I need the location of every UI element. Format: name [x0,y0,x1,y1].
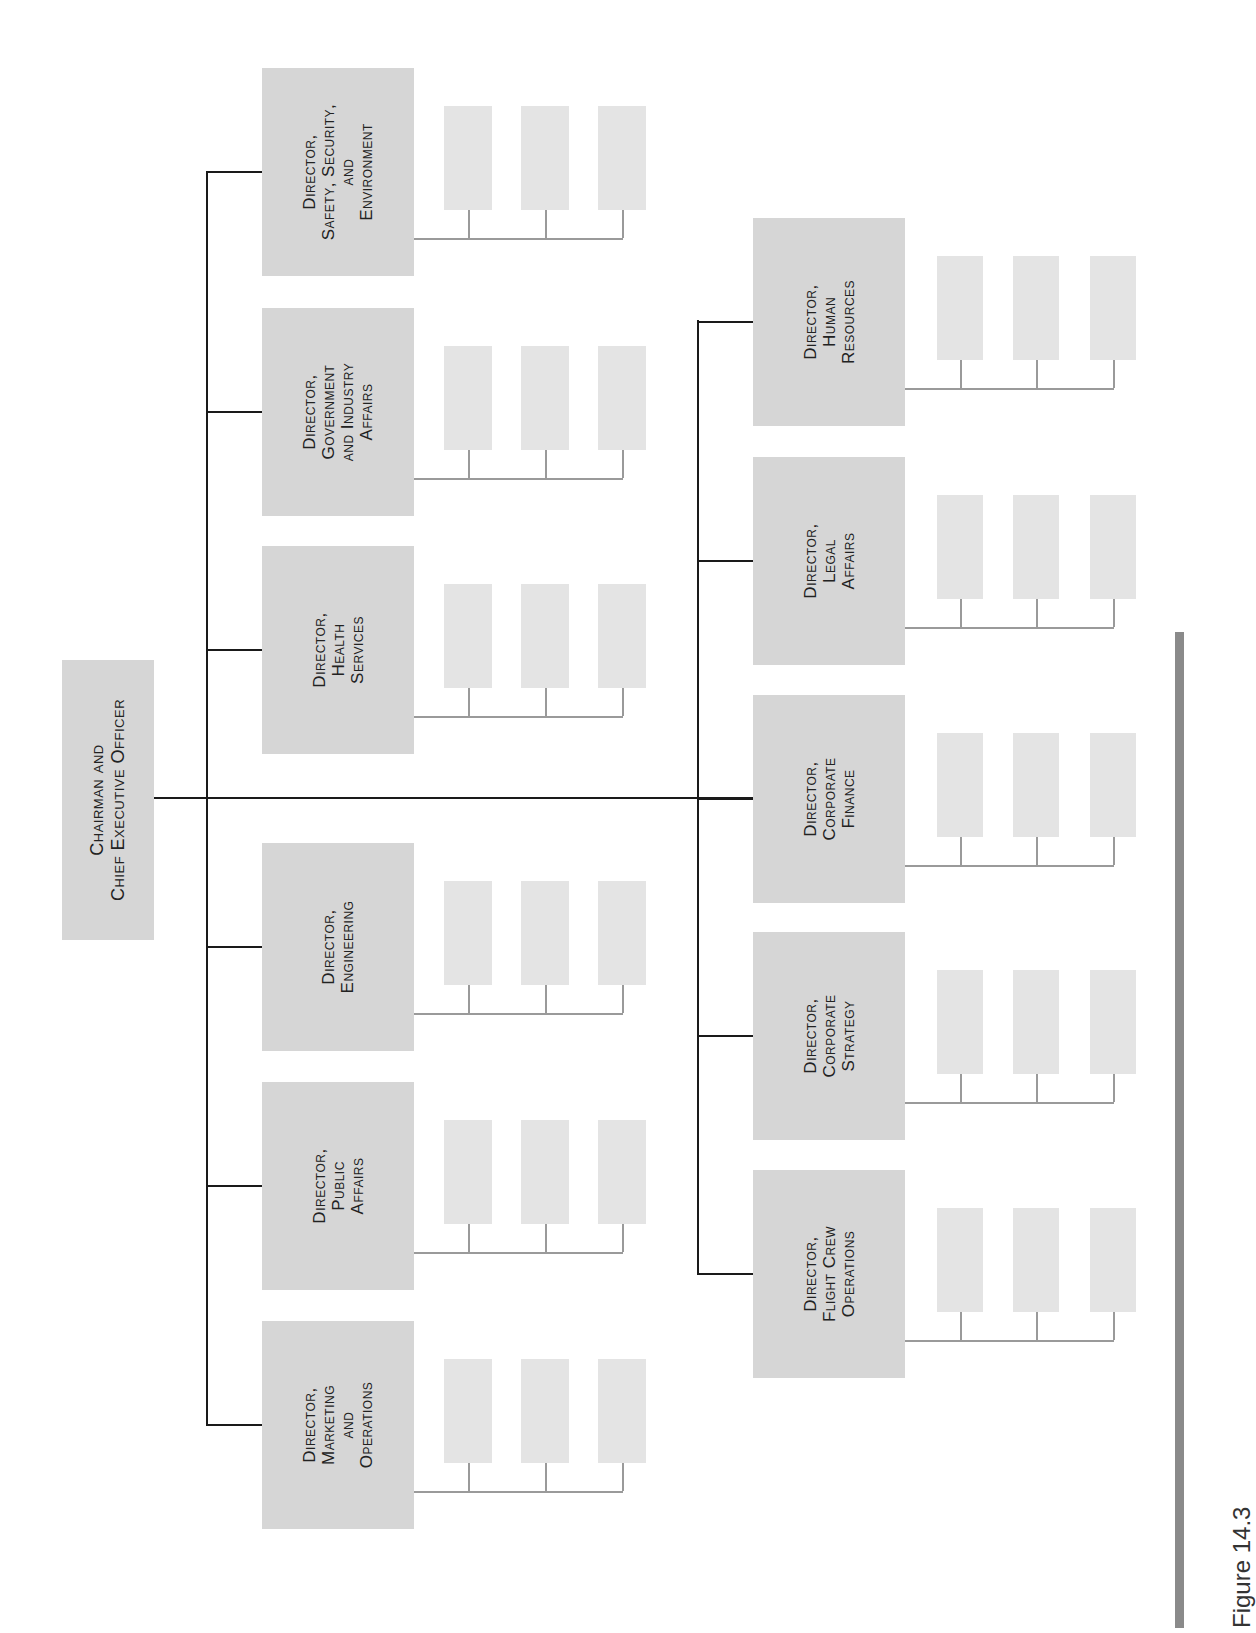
subordinate-box [1090,495,1136,599]
subordinate-connector [468,210,470,238]
subordinate-box [598,106,646,210]
director-connector [206,1424,262,1426]
subordinate-connector [622,1224,624,1252]
director-label: Director,LegalAffairs [801,523,858,598]
subordinate-box [1090,733,1136,837]
subordinate-box [1013,495,1059,599]
subordinate-box [521,584,569,688]
subordinate-connector [1036,1074,1038,1102]
subordinate-box [937,256,983,360]
subordinate-box [521,106,569,210]
subordinate-box [444,881,492,985]
subordinate-box [1090,1208,1136,1312]
subordinate-connector [960,360,962,388]
director-box: Director,Engineering [262,843,414,1051]
subordinate-connector [468,688,470,716]
subordinate-box [444,1359,492,1463]
subordinate-box [444,584,492,688]
director-connector [697,560,753,562]
subordinate-connector [960,599,962,627]
subordinate-bus [905,1102,1114,1104]
subordinate-connector [622,210,624,238]
subordinate-connector [545,688,547,716]
director-box: Director,Governmentand IndustryAffairs [262,308,414,516]
subordinate-box [937,970,983,1074]
ceo-box: Chairman and Chief Executive Officer [62,660,154,940]
subordinate-box [1013,970,1059,1074]
director-label: Director,CorporateFinance [801,757,858,840]
subordinate-connector [1113,1312,1115,1340]
director-connector [206,171,262,173]
director-label: Director,CorporateStrategy [801,994,858,1077]
director-connector [697,1273,753,1275]
subordinate-box [521,881,569,985]
director-connector [697,321,753,323]
subordinate-bus [414,716,623,718]
director-label: Director,MarketingandOperations [300,1382,376,1469]
subordinate-box [598,584,646,688]
subordinate-connector [545,210,547,238]
subordinate-bus [905,627,1114,629]
subordinate-connector [1113,599,1115,627]
subordinate-bus [414,478,623,480]
subordinate-connector [545,1224,547,1252]
subordinate-box [521,1120,569,1224]
director-label: Director,Safety, Security,andEnvironment [300,104,376,241]
ceo-label: Chairman and Chief Executive Officer [87,699,129,901]
director-box: Director,CorporateStrategy [753,932,905,1140]
trunk-line [154,797,759,799]
subordinate-box [598,346,646,450]
subordinate-box [598,881,646,985]
director-box: Director,PublicAffairs [262,1082,414,1290]
subordinate-connector [622,688,624,716]
subordinate-bus [414,1491,623,1493]
director-label: Director,Flight CrewOperations [801,1226,858,1322]
subordinate-box [1013,1208,1059,1312]
director-box: Director,Flight CrewOperations [753,1170,905,1378]
subordinate-connector [960,1074,962,1102]
subordinate-box [1013,733,1059,837]
director-connector [206,946,262,948]
subordinate-connector [1113,1074,1115,1102]
subordinate-bus [414,238,623,240]
subordinate-box [937,733,983,837]
subordinate-connector [1113,360,1115,388]
subordinate-connector [1036,360,1038,388]
subordinate-box [1013,256,1059,360]
subordinate-connector [545,985,547,1013]
upper-spine [206,172,208,1425]
subordinate-connector [468,1224,470,1252]
subordinate-connector [622,985,624,1013]
subordinate-box [444,106,492,210]
director-label: Director,PublicAffairs [310,1148,367,1223]
director-box: Director,CorporateFinance [753,695,905,903]
director-connector [206,1185,262,1187]
subordinate-box [1090,256,1136,360]
subordinate-connector [468,450,470,478]
subordinate-connector [1036,837,1038,865]
director-box: Director,MarketingandOperations [262,1321,414,1529]
director-label: Director,Engineering [319,901,357,994]
subordinate-connector [468,1463,470,1491]
subordinate-connector [960,1312,962,1340]
subordinate-box [444,1120,492,1224]
director-box: Director,Safety, Security,andEnvironment [262,68,414,276]
figure-caption: Figure 14.3 [1228,1507,1256,1628]
director-label: Director,HealthServices [310,612,367,687]
subordinate-connector [960,837,962,865]
subordinate-bus [905,388,1114,390]
subordinate-box [444,346,492,450]
subordinate-connector [622,450,624,478]
subordinate-bus [414,1252,623,1254]
subordinate-box [937,1208,983,1312]
director-connector [697,798,753,800]
subordinate-connector [1113,837,1115,865]
subordinate-box [521,1359,569,1463]
subordinate-connector [468,985,470,1013]
subordinate-connector [1036,1312,1038,1340]
subordinate-bus [905,865,1114,867]
subordinate-connector [545,450,547,478]
subordinate-box [937,495,983,599]
subordinate-bus [414,1013,623,1015]
subordinate-box [598,1359,646,1463]
